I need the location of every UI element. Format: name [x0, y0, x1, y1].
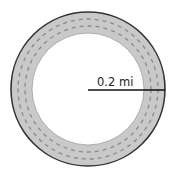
track-svg: 0.2 mi	[0, 0, 176, 179]
track-diagram: 0.2 mi	[0, 0, 176, 179]
radius-label: 0.2 mi	[97, 75, 133, 89]
inner-field-circle	[32, 33, 144, 145]
